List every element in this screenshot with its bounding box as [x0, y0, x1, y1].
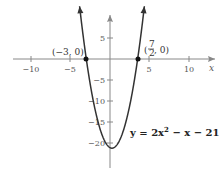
y-axis-arrow-icon [107, 15, 113, 22]
svg-text:, 0): , 0) [154, 45, 169, 55]
parabola-plot: x −10 −5 5 10 5 −5 −10 −15 −20 (−3, 0) (… [0, 0, 221, 172]
x-tick-label: 10 [184, 65, 194, 74]
y-tick-label: −5 [93, 76, 105, 85]
x-tick-label: −5 [64, 65, 76, 74]
root-point-left [84, 57, 89, 62]
x-axis-arrow-icon [208, 56, 215, 62]
y-tick-label: −20 [88, 139, 105, 148]
root-label-left: (−3, 0) [52, 47, 84, 57]
y-tick-label: 5 [100, 34, 105, 43]
x-tick-label: −10 [23, 65, 40, 74]
equation-label: y = 2x2 − x − 21 [129, 125, 220, 138]
y-tick-label: −15 [88, 118, 105, 127]
y-tick-label: −10 [88, 97, 105, 106]
root-point-right [136, 57, 141, 62]
x-axis-label: x [209, 63, 214, 73]
svg-text:(: ( [144, 45, 148, 55]
root-label-right: ( 7 2 , 0) [144, 39, 169, 58]
x-tick-label: 5 [146, 65, 151, 74]
